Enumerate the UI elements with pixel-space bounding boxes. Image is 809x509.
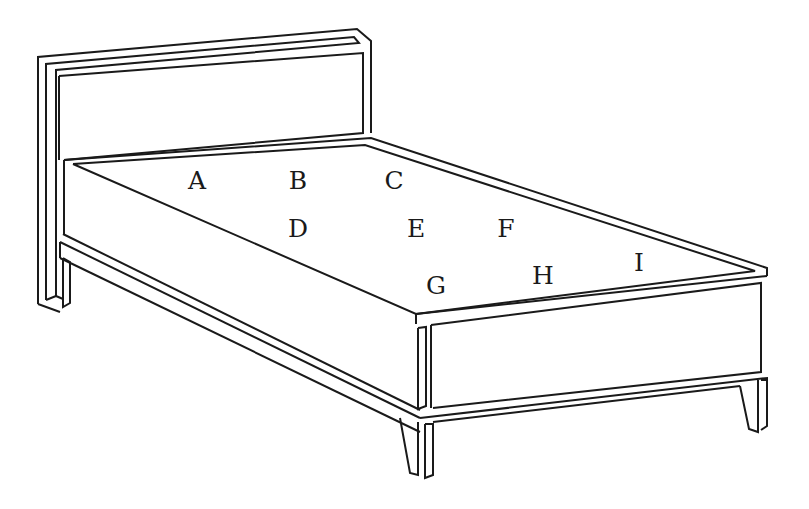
bed-diagram: A B C D E F G H I — [0, 0, 809, 509]
position-label-i: I — [634, 250, 644, 275]
position-label-h: H — [532, 263, 554, 288]
side-rail — [60, 234, 420, 432]
position-label-c: C — [384, 168, 403, 193]
legs — [63, 258, 767, 478]
position-label-f: F — [497, 216, 514, 241]
position-label-b: B — [289, 168, 307, 193]
position-label-d: D — [288, 216, 308, 241]
footboard — [416, 276, 767, 422]
bed-drawing — [0, 0, 809, 509]
position-label-a: A — [188, 168, 206, 193]
position-label-e: E — [407, 216, 425, 241]
position-label-g: G — [426, 273, 446, 298]
